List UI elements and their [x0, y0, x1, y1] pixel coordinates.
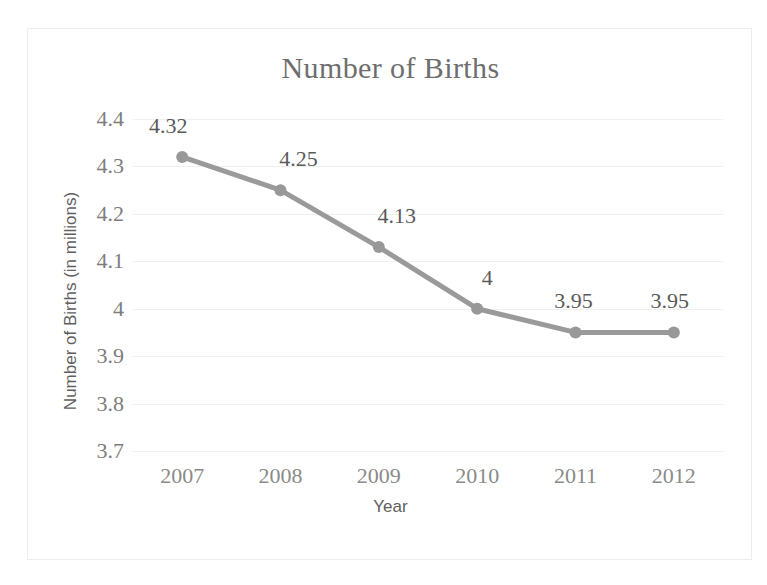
x-axis-tick-label: 2011	[554, 463, 597, 489]
data-point-marker	[176, 151, 188, 163]
y-axis-tick-label: 4.1	[97, 248, 125, 274]
data-point-label: 4	[482, 265, 493, 291]
y-axis-title: Number of Births (in millions)	[61, 151, 81, 451]
data-point-marker	[668, 326, 680, 338]
y-axis-tick-label: 4.2	[97, 201, 125, 227]
data-point-marker	[471, 303, 483, 315]
data-point-marker	[373, 241, 385, 253]
data-point-label: 4.13	[378, 203, 417, 229]
chart-title: Number of Births	[28, 51, 753, 85]
y-axis-tick-label: 4	[113, 296, 124, 322]
y-axis-tick-label: 3.9	[97, 343, 125, 369]
data-point-label: 3.95	[651, 288, 690, 314]
x-axis-title: Year	[28, 497, 753, 517]
x-axis-tick-label: 2012	[652, 463, 696, 489]
y-axis-tick-label: 4.4	[97, 106, 125, 132]
y-axis-tick-label: 3.7	[97, 438, 125, 464]
line-series	[133, 119, 723, 451]
data-point-marker	[570, 326, 582, 338]
gridline	[133, 451, 723, 452]
y-axis-tick-label: 4.3	[97, 153, 125, 179]
data-point-label: 3.95	[554, 288, 593, 314]
x-axis-tick-label: 2008	[259, 463, 303, 489]
plot-area: 4.44.34.24.143.93.83.7 20072008200920102…	[133, 119, 723, 451]
data-point-label: 4.25	[279, 146, 318, 172]
x-axis-tick-label: 2010	[455, 463, 499, 489]
x-axis-tick-label: 2009	[357, 463, 401, 489]
series-line	[182, 157, 674, 332]
data-point-label: 4.32	[149, 113, 188, 139]
x-axis-tick-label: 2007	[160, 463, 204, 489]
chart-container: Number of Births Number of Births (in mi…	[27, 28, 752, 560]
y-axis-tick-label: 3.8	[97, 391, 125, 417]
data-point-marker	[275, 184, 287, 196]
